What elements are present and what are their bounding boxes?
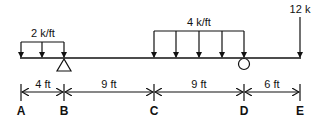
dimension-label-de: 6 ft (264, 78, 279, 90)
roller-support-circle-icon (239, 59, 250, 70)
load-label-4kft: 4 k/ft (187, 16, 211, 28)
dimension-label-bc: 9 ft (101, 78, 116, 90)
point-label-e: E (296, 104, 304, 118)
point-load-label: 12 k (290, 3, 311, 15)
load-label-2kft: 2 k/ft (31, 27, 55, 39)
distributed-load-2kft (21, 42, 64, 57)
pin-support-triangle-icon (57, 59, 71, 71)
distributed-load-4kft (154, 31, 244, 57)
point-label-a: A (17, 104, 26, 118)
point-label-c: C (150, 104, 159, 118)
dimension-label-cd: 9 ft (191, 78, 206, 90)
dimension-label-ab: 4 ft (35, 78, 50, 90)
point-label-d: D (240, 104, 249, 118)
point-label-b: B (60, 104, 69, 118)
beam-diagram: 2 k/ft 4 k/ft 12 k 4 ft 9 ft 9 ft 6 ft A… (0, 0, 324, 118)
